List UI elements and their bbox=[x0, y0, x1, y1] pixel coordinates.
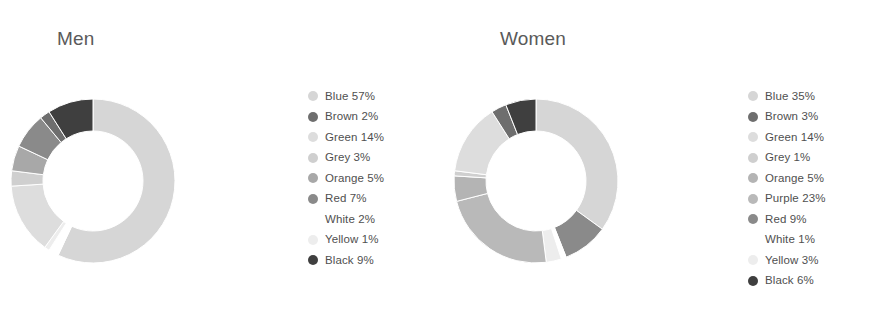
legend-label: White 1% bbox=[765, 234, 815, 246]
chart-panel-men: Men Blue 57%Brown 2%Green 14%Grey 3%Oran… bbox=[0, 0, 440, 333]
legend-item[interactable]: Red 7% bbox=[308, 189, 384, 210]
legend-item[interactable]: Blue 57% bbox=[308, 86, 384, 107]
legend-swatch-yellow-icon bbox=[308, 235, 318, 245]
legend-item[interactable]: Brown 3% bbox=[748, 107, 825, 128]
legend-swatch-white-icon bbox=[308, 214, 318, 224]
legend-item[interactable]: Orange 5% bbox=[748, 168, 825, 189]
legend-label: Yellow 3% bbox=[765, 255, 819, 267]
legend-label: Orange 5% bbox=[325, 173, 384, 185]
legend-label: Red 9% bbox=[765, 214, 807, 226]
donut-slice-purple[interactable] bbox=[457, 193, 547, 263]
legend-label: Grey 3% bbox=[325, 152, 370, 164]
legend-swatch-grey-icon bbox=[748, 153, 758, 163]
page-title-men: Men bbox=[57, 28, 95, 50]
donut-chart-women bbox=[451, 96, 621, 266]
legend-item[interactable]: Purple 23% bbox=[748, 189, 825, 210]
legend-item[interactable]: Yellow 1% bbox=[308, 230, 384, 251]
legend-swatch-grey-icon bbox=[308, 153, 318, 163]
legend-item[interactable]: Yellow 3% bbox=[748, 250, 825, 271]
legend-item[interactable]: Grey 3% bbox=[308, 148, 384, 169]
donut-svg-men bbox=[8, 96, 178, 266]
donut-chart-men bbox=[8, 96, 178, 266]
legend-swatch-black-icon bbox=[748, 276, 758, 286]
legend-label: Black 6% bbox=[765, 275, 814, 287]
legend-label: White 2% bbox=[325, 214, 375, 226]
legend-item[interactable]: White 1% bbox=[748, 230, 825, 251]
legend-swatch-brown-icon bbox=[748, 112, 758, 122]
page-title-women: Women bbox=[500, 28, 566, 50]
legend-swatch-blue-icon bbox=[748, 91, 758, 101]
legend-item[interactable]: Black 6% bbox=[748, 271, 825, 292]
legend-label: Orange 5% bbox=[765, 173, 824, 185]
legend-label: Blue 57% bbox=[325, 91, 375, 103]
legend-swatch-green-icon bbox=[748, 132, 758, 142]
legend-swatch-yellow-icon bbox=[748, 255, 758, 265]
legend-swatch-red-icon bbox=[748, 214, 758, 224]
legend-item[interactable]: Red 9% bbox=[748, 209, 825, 230]
legend-item[interactable]: Green 14% bbox=[308, 127, 384, 148]
legend-item[interactable]: Brown 2% bbox=[308, 107, 384, 128]
legend-swatch-black-icon bbox=[308, 255, 318, 265]
donut-svg-women bbox=[451, 96, 621, 266]
legend-label: Blue 35% bbox=[765, 91, 815, 103]
legend-item[interactable]: Green 14% bbox=[748, 127, 825, 148]
chart-legend-women: Blue 35%Brown 3%Green 14%Grey 1%Orange 5… bbox=[748, 86, 825, 291]
legend-swatch-blue-icon bbox=[308, 91, 318, 101]
legend-swatch-white-icon bbox=[748, 235, 758, 245]
legend-swatch-green-icon bbox=[308, 132, 318, 142]
legend-label: Purple 23% bbox=[765, 193, 825, 205]
legend-swatch-purple-icon bbox=[748, 194, 758, 204]
chart-page: Men Blue 57%Brown 2%Green 14%Grey 3%Oran… bbox=[0, 0, 883, 333]
donut-slice-blue[interactable] bbox=[536, 99, 618, 229]
legend-swatch-orange-icon bbox=[748, 173, 758, 183]
legend-label: Black 9% bbox=[325, 255, 374, 267]
legend-label: Red 7% bbox=[325, 193, 367, 205]
legend-label: Brown 3% bbox=[765, 111, 818, 123]
legend-label: Green 14% bbox=[765, 132, 824, 144]
legend-item[interactable]: Orange 5% bbox=[308, 168, 384, 189]
legend-item[interactable]: Blue 35% bbox=[748, 86, 825, 107]
legend-swatch-orange-icon bbox=[308, 173, 318, 183]
legend-swatch-brown-icon bbox=[308, 112, 318, 122]
legend-label: Yellow 1% bbox=[325, 234, 379, 246]
legend-item[interactable]: White 2% bbox=[308, 209, 384, 230]
legend-swatch-red-icon bbox=[308, 194, 318, 204]
legend-item[interactable]: Black 9% bbox=[308, 250, 384, 271]
legend-label: Green 14% bbox=[325, 132, 384, 144]
chart-panel-women: Women Blue 35%Brown 3%Green 14%Grey 1%Or… bbox=[443, 0, 883, 333]
legend-item[interactable]: Grey 1% bbox=[748, 148, 825, 169]
chart-legend-men: Blue 57%Brown 2%Green 14%Grey 3%Orange 5… bbox=[308, 86, 384, 271]
legend-label: Grey 1% bbox=[765, 152, 810, 164]
legend-label: Brown 2% bbox=[325, 111, 378, 123]
